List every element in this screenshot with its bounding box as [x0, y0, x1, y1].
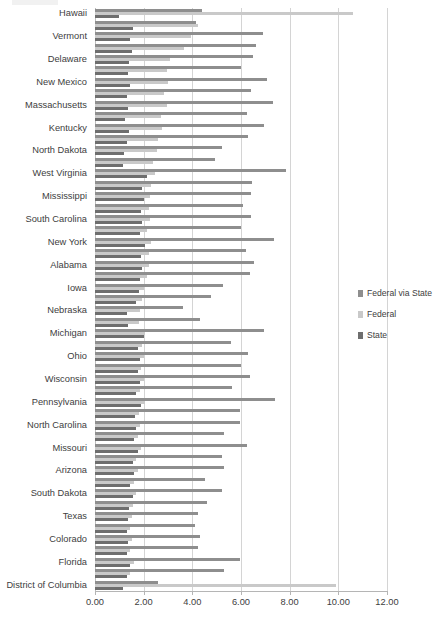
bar	[95, 358, 140, 361]
bar	[95, 530, 127, 533]
bar	[95, 198, 144, 201]
bar	[95, 347, 138, 350]
bar	[95, 27, 133, 30]
category-label: Wisconsin	[0, 374, 90, 384]
category-label: Massachusetts	[0, 100, 90, 110]
bar	[95, 61, 129, 64]
bar	[95, 50, 132, 53]
bar	[95, 484, 130, 487]
bar	[95, 450, 138, 453]
category-label: Texas	[0, 511, 90, 521]
x-tick-mark	[241, 591, 242, 595]
horizontal-grouped-bar-chart: HawaiiVermontDelawareNew MexicoMassachus…	[0, 0, 442, 626]
category-label: District of Columbia	[0, 580, 90, 590]
bar	[95, 38, 130, 41]
category-label: Colorado	[0, 534, 90, 544]
legend-item-state[interactable]: State	[358, 330, 432, 341]
bar-series-container	[95, 8, 387, 591]
bar	[95, 72, 128, 75]
category-label: Florida	[0, 557, 90, 567]
bar	[95, 255, 141, 258]
category-label: New York	[0, 237, 90, 247]
bar	[95, 312, 127, 315]
bar	[95, 244, 145, 247]
category-label: Hawaii	[0, 8, 90, 18]
bar	[95, 84, 130, 87]
bar	[95, 507, 129, 510]
x-tick-label: 8.00	[270, 597, 310, 608]
bar	[95, 392, 136, 395]
bar	[95, 370, 138, 373]
category-label: South Dakota	[0, 488, 90, 498]
x-tick-label: 10.00	[318, 597, 358, 608]
bar	[95, 267, 142, 270]
bar	[95, 404, 141, 407]
bar	[95, 164, 123, 167]
plot-area	[95, 8, 387, 591]
bar	[95, 552, 127, 555]
category-label: North Carolina	[0, 420, 90, 430]
bar	[95, 175, 147, 178]
bar	[95, 575, 127, 578]
bar	[95, 130, 129, 133]
bar	[95, 518, 128, 521]
category-label: Delaware	[0, 54, 90, 64]
x-tick-label: 4.00	[172, 597, 212, 608]
bar	[95, 564, 130, 567]
category-label: Alabama	[0, 260, 90, 270]
bar	[95, 187, 142, 190]
legend-item-federal[interactable]: Federal	[358, 309, 432, 320]
legend-label: State	[367, 330, 387, 341]
bar	[95, 152, 124, 155]
category-label: Pennsylvania	[0, 397, 90, 407]
category-label: Iowa	[0, 283, 90, 293]
legend-swatch-icon	[358, 290, 363, 297]
clipped-title-artifact	[12, 0, 58, 5]
bar	[95, 221, 142, 224]
bar	[95, 415, 135, 418]
bar	[95, 95, 127, 98]
bar	[95, 232, 140, 235]
category-label: West Virginia	[0, 168, 90, 178]
bar	[95, 301, 136, 304]
legend-label: Federal	[367, 309, 396, 320]
bar	[95, 335, 144, 338]
category-label: Missouri	[0, 443, 90, 453]
category-label: New Mexico	[0, 77, 90, 87]
x-tick-mark	[192, 591, 193, 595]
x-tick-mark	[95, 591, 96, 595]
x-tick-label: 6.00	[221, 597, 261, 608]
legend-swatch-icon	[358, 332, 363, 339]
bar	[95, 472, 134, 475]
category-label: Ohio	[0, 351, 90, 361]
bar	[95, 461, 133, 464]
bar	[95, 541, 128, 544]
bar	[95, 12, 353, 15]
legend-item-federal-via-state[interactable]: Federal via State	[358, 288, 432, 299]
category-label: Vermont	[0, 31, 90, 41]
category-label: Mississippi	[0, 191, 90, 201]
bar	[95, 118, 125, 121]
bar	[95, 438, 134, 441]
bar	[95, 587, 123, 590]
x-tick-mark	[338, 591, 339, 595]
category-label: South Carolina	[0, 214, 90, 224]
x-tick-mark	[144, 591, 145, 595]
bar	[95, 107, 128, 110]
bar	[95, 210, 141, 213]
category-label: North Dakota	[0, 145, 90, 155]
x-tick-mark	[387, 591, 388, 595]
bar	[95, 495, 133, 498]
bar	[95, 381, 140, 384]
bar	[95, 141, 127, 144]
bar	[95, 278, 140, 281]
x-tick-mark	[290, 591, 291, 595]
category-label: Nebraska	[0, 305, 90, 315]
bar	[95, 324, 128, 327]
category-label: Arizona	[0, 465, 90, 475]
bar	[95, 15, 119, 18]
bar	[95, 290, 139, 293]
bar	[95, 584, 336, 587]
category-label: Kentucky	[0, 123, 90, 133]
legend-label: Federal via State	[367, 288, 432, 299]
